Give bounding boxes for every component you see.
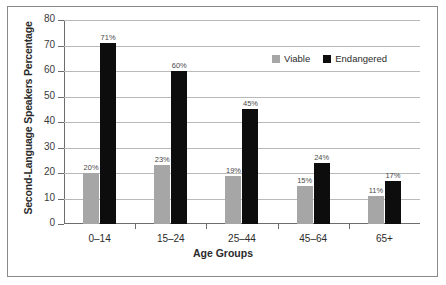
y-axis-tick-label: 10 <box>44 192 55 203</box>
bar-group: 20%71%0–14 <box>64 20 135 224</box>
bar-value-label: 71% <box>101 33 116 42</box>
x-axis-tick-label: 15–24 <box>157 233 185 244</box>
y-axis-tick-label: 30 <box>44 141 55 152</box>
legend-label: Endangered <box>335 53 387 64</box>
bar-value-label: 23% <box>155 155 170 164</box>
bar-value-label: 24% <box>314 153 329 162</box>
x-axis-tick <box>278 224 279 229</box>
x-axis-tick <box>135 224 136 229</box>
bar-endangered[interactable]: 17% <box>385 181 401 224</box>
bar-value-label: 17% <box>385 171 400 180</box>
chart-figure: Second-Language Speakers Percentage Age … <box>0 0 446 285</box>
bar-value-label: 11% <box>369 186 383 195</box>
x-axis-tick-label: 45–64 <box>299 233 327 244</box>
bar-endangered[interactable]: 71% <box>100 43 116 224</box>
bar-endangered[interactable]: 24% <box>314 163 330 224</box>
bar-value-label: 19% <box>226 166 241 175</box>
y-axis-tick-label: 40 <box>44 115 55 126</box>
bar-viable[interactable]: 23% <box>154 165 170 224</box>
x-axis-tick <box>206 224 207 229</box>
y-axis-tick-label: 70 <box>44 39 55 50</box>
legend-swatch-icon <box>272 55 280 63</box>
legend-item-viable[interactable]: Viable <box>272 53 310 64</box>
x-axis-tick-label: 0–14 <box>88 233 110 244</box>
bar-viable[interactable]: 15% <box>297 186 313 224</box>
bar-endangered[interactable]: 60% <box>171 71 187 224</box>
x-axis-tick-label: 25–44 <box>228 233 256 244</box>
y-axis-tick-label: 60 <box>44 64 55 75</box>
bar-group: 15%24%45–64 <box>278 20 349 224</box>
legend-label: Viable <box>284 53 310 64</box>
chart-legend: ViableEndangered <box>272 53 387 64</box>
plot-area: 01020304050607080 20%71%0–1423%60%15–241… <box>64 20 420 224</box>
y-axis-tick: 0 <box>58 224 64 225</box>
x-axis-title: Age Groups <box>0 247 446 259</box>
bar-value-label: 15% <box>297 176 312 185</box>
bar-viable[interactable]: 20% <box>83 173 99 224</box>
y-axis-tick-label: 50 <box>44 90 55 101</box>
x-axis-tick-label: 65+ <box>376 233 393 244</box>
bar-endangered[interactable]: 45% <box>242 109 258 224</box>
bar-group: 11%17%65+ <box>349 20 420 224</box>
bar-group: 23%60%15–24 <box>135 20 206 224</box>
y-axis-tick-label: 80 <box>44 13 55 24</box>
legend-item-endangered[interactable]: Endangered <box>323 53 387 64</box>
bar-value-label: 45% <box>243 99 258 108</box>
y-axis-title: Second-Language Speakers Percentage <box>22 8 34 228</box>
bar-viable[interactable]: 19% <box>225 176 241 224</box>
bar-viable[interactable]: 11% <box>368 196 384 224</box>
y-axis-tick-label: 20 <box>44 166 55 177</box>
bar-group: 19%45%25–44 <box>206 20 277 224</box>
bar-value-label: 60% <box>172 61 187 70</box>
y-axis-tick-label: 0 <box>49 217 55 228</box>
bar-value-label: 20% <box>84 163 99 172</box>
x-axis-tick <box>349 224 350 229</box>
legend-swatch-icon <box>323 55 331 63</box>
